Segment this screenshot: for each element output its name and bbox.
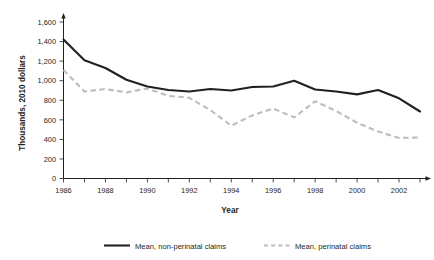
x-tick-label: 1994 xyxy=(223,186,239,195)
y-tick-label: 1,400 xyxy=(38,37,57,46)
y-tick-label: 0 xyxy=(52,174,56,183)
chart-background xyxy=(0,0,434,260)
y-tick-label: 600 xyxy=(44,116,56,125)
x-tick-label: 1990 xyxy=(139,186,155,195)
x-tick-label: 1988 xyxy=(97,186,113,195)
x-tick-label: 2000 xyxy=(349,186,365,195)
legend-label-non-perinatal: Mean, non-perinatal claims xyxy=(135,242,226,251)
y-tick-label: 1,600 xyxy=(38,18,57,27)
y-tick-label: 1,200 xyxy=(38,57,57,66)
y-tick-label: 200 xyxy=(44,155,56,164)
x-tick-label: 1992 xyxy=(181,186,197,195)
x-tick-label: 1986 xyxy=(55,186,71,195)
legend-label-perinatal: Mean, perinatal claims xyxy=(295,242,371,251)
y-tick-label: 400 xyxy=(44,135,56,144)
x-axis-title: Year xyxy=(221,206,239,215)
y-axis-title: Thousands, 2010 dollars xyxy=(18,55,27,151)
y-tick-label: 800 xyxy=(44,96,56,105)
line-chart: Thousands, 2010 dollars 02004006008001,0… xyxy=(0,0,434,260)
x-tick-label: 2002 xyxy=(391,186,407,195)
y-tick-label: 1,000 xyxy=(38,76,57,85)
chart-container: Thousands, 2010 dollars 02004006008001,0… xyxy=(0,0,434,260)
x-tick-label: 1998 xyxy=(307,186,323,195)
x-tick-label: 1996 xyxy=(265,186,281,195)
